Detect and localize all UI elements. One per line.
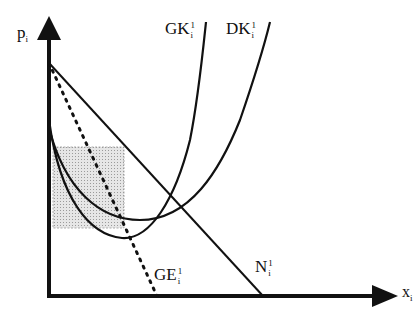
y-axis-label-base: p	[17, 23, 26, 42]
x-axis-label-base: x	[402, 283, 410, 300]
label-DK-sup: 1	[252, 20, 257, 30]
label-GK-base: GK	[165, 19, 190, 38]
label-GK-sub: i	[191, 30, 196, 40]
label-N-sup: 1	[268, 258, 273, 268]
x-axis-label-sub: i	[410, 293, 413, 303]
y-axis-label-sub: i	[26, 34, 29, 44]
label-DK-sub: i	[252, 30, 257, 40]
label-DK-base: DK	[226, 19, 251, 38]
label-GK-sup: 1	[191, 20, 196, 30]
x-axis-arrow-icon	[372, 285, 398, 307]
y-axis-label: pi	[17, 24, 28, 44]
label-GK: GK1i	[165, 20, 195, 40]
label-N: N1i	[255, 258, 273, 278]
label-N-base: N	[255, 257, 267, 276]
diagram-canvas	[0, 0, 414, 322]
label-N-sub: i	[268, 268, 273, 278]
label-GE-sub: i	[178, 276, 183, 286]
label-GE: GE1i	[154, 266, 182, 286]
x-axis-label: xi	[402, 284, 413, 303]
label-DK: DK1i	[226, 20, 256, 40]
label-GE-sup: 1	[178, 266, 183, 276]
y-axis-arrow-icon	[37, 16, 61, 40]
label-GE-base: GE	[154, 265, 177, 284]
